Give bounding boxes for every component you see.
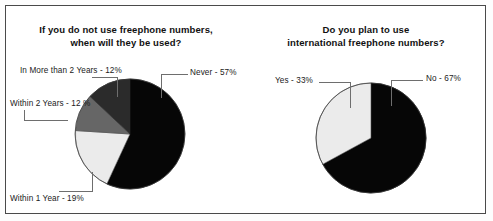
leader-line-more-than-2-years-vertical: [117, 77, 118, 97]
pie-label-never: Never - 57%: [190, 68, 237, 77]
pie-label-yes: Yes - 33%: [275, 76, 313, 85]
leader-line-no-vertical: [391, 80, 392, 106]
pie-chart-right: [315, 82, 427, 194]
leader-line-within-2-years-horizontal: [24, 120, 68, 121]
pie-label-within-1-year: Within 1 Year - 19%: [10, 194, 84, 203]
chart-title-right-line2: international freephone numbers?: [247, 36, 485, 49]
chart-title-right: Do you plan to use international freepho…: [247, 23, 485, 49]
leader-line-no-horizontal: [391, 80, 423, 81]
leader-line-within-1-year-vertical: [92, 172, 93, 192]
leader-line-within-2-years-vertical: [24, 110, 25, 121]
chart-panel-international-freephone-plan: Do you plan to use international freepho…: [247, 6, 485, 213]
pie-label-within-2-years: Within 2 Years - 12 %: [10, 99, 90, 108]
pie-chart-left: [74, 78, 186, 190]
leader-line-more-than-2-years-horizontal: [92, 77, 118, 78]
chart-title-left-line1: If you do not use freephone numbers,: [6, 23, 246, 36]
leader-line-yes-horizontal: [319, 82, 351, 83]
chart-title-right-line1: Do you plan to use: [247, 23, 485, 36]
leader-line-yes-vertical: [350, 82, 351, 108]
leader-line-never-horizontal: [161, 74, 188, 75]
leader-line-never-vertical: [161, 74, 162, 98]
chart-panel-freephone-usage-timing: If you do not use freephone numbers, whe…: [6, 6, 246, 213]
pie-label-no: No - 67%: [426, 74, 461, 83]
chart-page: If you do not use freephone numbers, whe…: [0, 0, 493, 221]
chart-title-left: If you do not use freephone numbers, whe…: [6, 23, 246, 49]
pie-label-more-than-2-years: In More than 2 Years - 12%: [20, 66, 122, 75]
chart-title-left-line2: when will they be used?: [6, 36, 246, 49]
leader-line-within-1-year-horizontal: [59, 191, 93, 192]
